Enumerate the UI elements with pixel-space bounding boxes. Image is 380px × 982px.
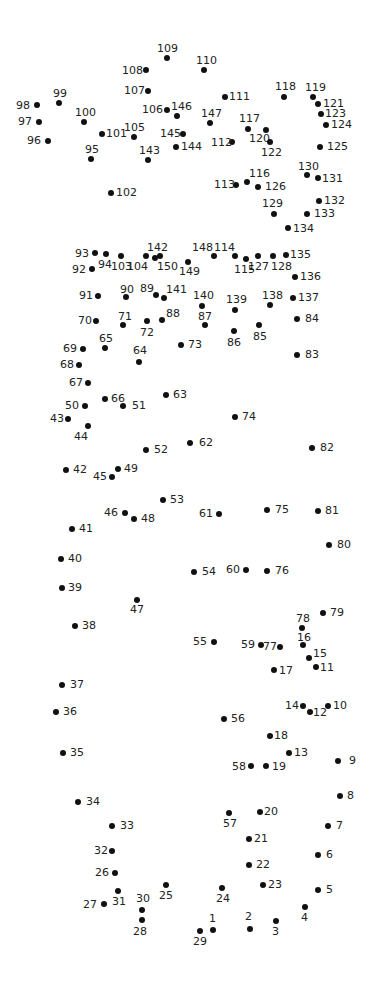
dot-number-label: 51 — [132, 400, 146, 411]
dot-number-label: 83 — [305, 349, 319, 360]
puzzle-dot — [263, 763, 269, 769]
puzzle-dot — [226, 810, 232, 816]
dot-number-label: 136 — [300, 271, 321, 282]
dot-number-label: 127 — [248, 261, 269, 272]
dot-number-label: 117 — [239, 113, 260, 124]
dot-number-label: 106 — [142, 104, 163, 115]
dot-number-label: 111 — [229, 91, 250, 102]
puzzle-dot — [89, 266, 95, 272]
dot-number-label: 37 — [70, 679, 84, 690]
dot-number-label: 30 — [136, 893, 150, 904]
dot-number-label: 18 — [274, 730, 288, 741]
dot-number-label: 70 — [78, 315, 92, 326]
puzzle-dot — [81, 119, 87, 125]
puzzle-dot — [337, 793, 343, 799]
puzzle-dot — [273, 918, 279, 924]
puzzle-dot — [145, 157, 151, 163]
dot-number-label: 72 — [140, 327, 154, 338]
dot-number-label: 12 — [313, 707, 327, 718]
dot-number-label: 67 — [69, 377, 83, 388]
puzzle-dot — [260, 882, 266, 888]
dot-number-label: 55 — [193, 636, 207, 647]
dot-number-label: 99 — [53, 88, 67, 99]
puzzle-dot — [300, 703, 306, 709]
puzzle-dot — [99, 131, 105, 137]
puzzle-dot — [136, 359, 142, 365]
puzzle-dot — [59, 585, 65, 591]
puzzle-dot — [103, 251, 109, 257]
dot-number-label: 63 — [173, 389, 187, 400]
dot-to-dot-puzzle: 1234567891011121314151617181920212223242… — [0, 0, 380, 982]
puzzle-dot — [315, 101, 321, 107]
puzzle-dot — [315, 508, 321, 514]
dot-number-label: 88 — [166, 308, 180, 319]
dot-number-label: 54 — [202, 566, 216, 577]
dot-number-label: 1 — [209, 913, 216, 924]
dot-number-label: 69 — [63, 343, 77, 354]
puzzle-dot — [131, 134, 137, 140]
puzzle-dot — [115, 466, 121, 472]
puzzle-dot — [143, 67, 149, 73]
dot-number-label: 53 — [170, 494, 184, 505]
dot-number-label: 57 — [223, 818, 237, 829]
dot-number-label: 11 — [320, 662, 334, 673]
dot-number-label: 52 — [154, 444, 168, 455]
dot-number-label: 59 — [241, 639, 255, 650]
puzzle-dot — [285, 225, 291, 231]
dot-number-label: 144 — [181, 141, 202, 152]
puzzle-dot — [283, 252, 289, 258]
puzzle-dot — [102, 345, 108, 351]
dot-number-label: 4 — [301, 912, 308, 923]
puzzle-dot — [122, 510, 128, 516]
puzzle-dot — [264, 507, 270, 513]
dot-number-label: 17 — [279, 665, 293, 676]
dot-number-label: 149 — [179, 266, 200, 277]
dot-number-label: 139 — [226, 294, 247, 305]
puzzle-dot — [118, 253, 124, 259]
dot-number-label: 2 — [245, 911, 252, 922]
dot-number-label: 122 — [261, 147, 282, 158]
dot-number-label: 112 — [211, 137, 232, 148]
puzzle-dot — [232, 414, 238, 420]
puzzle-dot — [243, 567, 249, 573]
dot-number-label: 116 — [249, 168, 270, 179]
dot-number-label: 80 — [337, 539, 351, 550]
dot-number-label: 41 — [79, 523, 93, 534]
dot-number-label: 66 — [111, 393, 125, 404]
dot-number-label: 137 — [298, 292, 319, 303]
puzzle-dot — [255, 253, 261, 259]
dot-number-label: 75 — [275, 504, 289, 515]
puzzle-dot — [160, 497, 166, 503]
puzzle-dot — [115, 888, 121, 894]
puzzle-dot — [76, 362, 82, 368]
puzzle-dot — [58, 556, 64, 562]
puzzle-dot — [304, 211, 310, 217]
dot-number-label: 58 — [232, 761, 246, 772]
puzzle-dot — [82, 403, 88, 409]
dot-number-label: 79 — [330, 607, 344, 618]
puzzle-dot — [69, 526, 75, 532]
dot-number-label: 102 — [116, 187, 137, 198]
dot-number-label: 13 — [294, 747, 308, 758]
dot-number-label: 107 — [124, 85, 145, 96]
dot-number-label: 39 — [68, 582, 82, 593]
dot-number-label: 82 — [320, 442, 334, 453]
puzzle-dot — [325, 823, 331, 829]
puzzle-dot — [159, 317, 165, 323]
dot-number-label: 62 — [199, 437, 213, 448]
dot-number-label: 95 — [85, 144, 99, 155]
puzzle-dot — [174, 113, 180, 119]
dot-number-label: 81 — [325, 505, 339, 516]
dot-number-label: 20 — [264, 806, 278, 817]
dot-number-label: 14 — [285, 700, 299, 711]
dot-number-label: 113 — [214, 179, 235, 190]
puzzle-dot — [201, 67, 207, 73]
puzzle-dot — [191, 569, 197, 575]
dot-number-label: 105 — [124, 122, 145, 133]
dot-number-label: 29 — [193, 936, 207, 947]
dot-number-label: 5 — [326, 884, 333, 895]
dot-number-label: 91 — [79, 290, 93, 301]
dot-number-label: 46 — [104, 507, 118, 518]
dot-number-label: 147 — [201, 108, 222, 119]
puzzle-dot — [267, 139, 273, 145]
